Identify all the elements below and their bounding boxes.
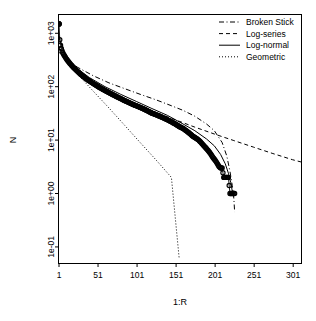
x-tick-label: 101 — [130, 270, 144, 280]
legend-label-log-series: Log-series — [246, 29, 286, 39]
y-axis-title: N — [8, 137, 18, 144]
rank-abundance-plot: 151101151201251301 1e+031e+021e+011e+001… — [0, 0, 316, 321]
legend-label-broken-stick: Broken Stick — [246, 17, 294, 27]
x-tick-label: 51 — [93, 270, 103, 280]
y-tick-label: 1e+01 — [46, 128, 56, 152]
x-tick-label: 301 — [286, 270, 300, 280]
y-tick-label: 1e+00 — [46, 181, 56, 205]
x-tick-label: 151 — [169, 270, 183, 280]
x-tick-label: 1 — [57, 270, 62, 280]
y-tick-label: 1e+03 — [46, 21, 56, 45]
x-axis-title: 1:R — [173, 297, 188, 307]
x-tick-label: 251 — [247, 270, 261, 280]
x-tick-label: 201 — [208, 270, 222, 280]
chart-container: 151101151201251301 1e+031e+021e+011e+001… — [0, 0, 316, 321]
legend-label-log-normal: Log-normal — [246, 40, 289, 50]
legend-label-geometric: Geometric — [246, 52, 286, 62]
y-tick-label: 1e+02 — [46, 74, 56, 98]
y-tick-label: 1e-01 — [46, 236, 56, 258]
